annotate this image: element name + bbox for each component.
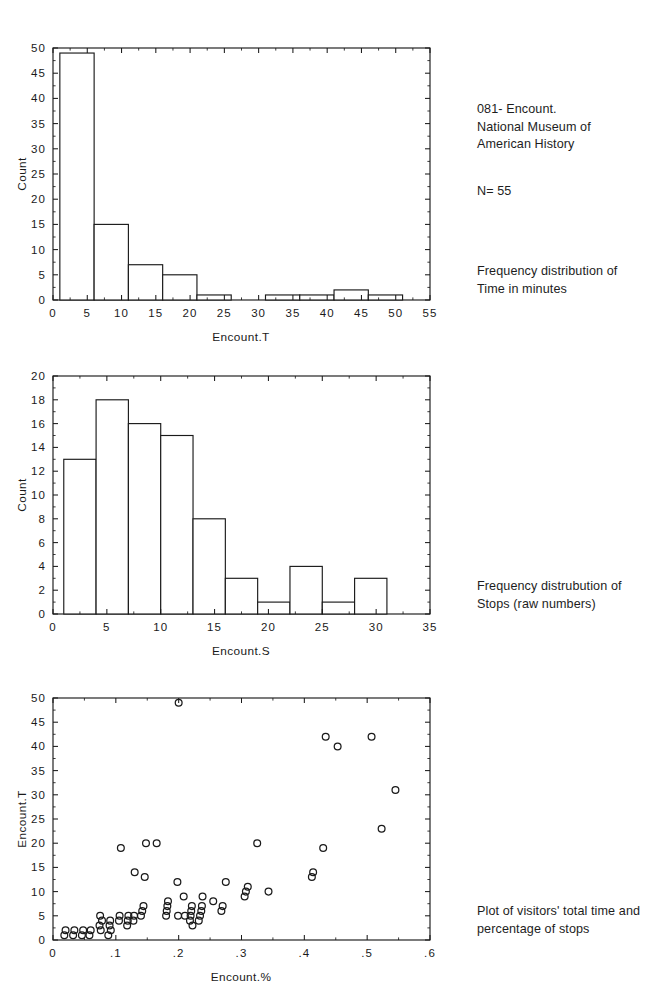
scatter-point [86,932,93,939]
y-tick-label: 0 [39,294,47,306]
y-tick-label: 4 [39,560,47,572]
x-tick-label: 30 [251,307,266,319]
bar-series-hist-stops [64,400,387,614]
y-tick-labels-hist-stops: 02468101214161820 [31,370,46,620]
y-tick-label: 2 [39,584,47,596]
y-tick-label: 20 [31,370,46,382]
scatter-point [131,869,138,876]
y-tick-label: 20 [31,193,46,205]
scatter-point [254,840,261,847]
x-tick-label: 0 [49,621,57,633]
histogram-bar [197,295,231,300]
y-tick-label: 18 [31,394,46,406]
scatter-point [368,733,375,740]
histogram-bar [128,265,162,300]
x-tick-label: 0 [49,947,57,959]
y-tick-labels-hist-time: 05101520253035404550 [31,42,46,306]
point-series-scatter [61,699,399,938]
scatter-point [153,840,160,847]
x-tick-label: 50 [388,307,403,319]
scatter-point [87,927,94,934]
x-tick-labels-scatter: 0.1.2.3.4.5.6 [49,947,436,959]
x-tick-label: 35 [285,307,300,319]
y-tick-label: 5 [39,269,47,281]
scatter-point [378,825,385,832]
x-tick-label: 30 [369,621,384,633]
caption-hist-stops: Frequency distrubution of Stops (raw num… [477,578,657,613]
x-tick-label: 15 [207,621,222,633]
y-tick-label: 40 [31,740,46,752]
x-axis-title-hist-stops: Encount.S [212,644,270,658]
y-axis-title-hist-time: Count [15,157,29,191]
y-tick-label: 50 [31,42,46,54]
histogram-encount-time: 0510152025303540455055 05101520253035404… [0,30,470,360]
y-tick-label: 8 [39,513,47,525]
scatter-point [175,912,182,919]
x-tick-label: .5 [361,947,373,959]
scatter-point [140,903,147,910]
y-tick-label: 25 [31,813,46,825]
histogram-bar [96,400,128,614]
scatter-point [139,908,146,915]
x-axis-title-hist-time: Encount.T [212,330,269,344]
caption-hist-time: Frequency distribution of Time in minute… [477,263,657,298]
histogram-bar [322,602,354,614]
y-tick-label: 30 [31,789,46,801]
x-tick-label: 25 [217,307,232,319]
y-tick-label: 0 [39,608,47,620]
histogram-bar [355,578,387,614]
y-tick-label: 12 [31,465,46,477]
record-identifier-note: 081- Encount. National Museum of America… [477,101,652,154]
x-tick-label: 40 [320,307,335,319]
y-axis-title-hist-stops: Count [15,478,29,512]
x-axis-title-scatter: Encount.% [211,970,272,984]
histogram-bar [94,224,128,300]
caption-scatter: Plot of visitors' total time and percent… [477,903,657,938]
scatter-point [199,903,206,910]
scatter-point [138,912,145,919]
x-tick-label: .4 [298,947,310,959]
y-tick-label: 20 [31,837,46,849]
bar-series-hist-time [60,53,403,300]
scatter-point [117,845,124,852]
scatter-point [197,912,204,919]
histogram-bar [128,424,160,614]
histogram-bar [64,459,96,614]
x-tick-label: 45 [354,307,369,319]
histogram-bar [163,275,197,300]
x-tick-label: 5 [84,307,92,319]
scatter-point [62,927,69,934]
histogram-encount-stops: 05101520253035 02468101214161820 Encount… [0,360,470,670]
scatter-point [392,787,399,794]
histogram-bar [161,436,193,615]
histogram-bar [225,578,257,614]
y-tick-label: 30 [31,143,46,155]
scatter-point [97,927,104,934]
y-axis-title-scatter: Encount.T [15,790,29,847]
y-tick-label: 14 [31,441,46,453]
y-tick-label: 5 [39,910,47,922]
scatter-point [165,898,172,905]
scatter-point [310,869,317,876]
scatter-point [199,893,206,900]
histogram-encount-stops-svg: 05101520253035 02468101214161820 Encount… [0,360,470,670]
scatter-point [210,898,217,905]
x-tick-labels-hist-time: 0510152025303540455055 [49,307,437,319]
y-tick-label: 15 [31,861,46,873]
scatter-time-vs-percentage: 0.1.2.3.4.5.6 05101520253035404550 Encou… [0,680,470,996]
scatter-point [265,888,272,895]
scatter-point [141,874,148,881]
scatter-point [188,903,195,910]
x-tick-label: 35 [423,621,438,633]
y-tick-label: 35 [31,765,46,777]
x-tick-label: 20 [261,621,276,633]
y-tick-label: 10 [31,489,46,501]
scatter-point [71,927,78,934]
scatter-point [334,743,341,750]
x-tick-label: 5 [103,621,111,633]
scatter-point [322,733,329,740]
x-tick-label: 0 [49,307,57,319]
y-tick-label: 40 [31,92,46,104]
scatter-point [195,917,202,924]
y-tick-labels-scatter: 05101520253035404550 [31,692,46,946]
